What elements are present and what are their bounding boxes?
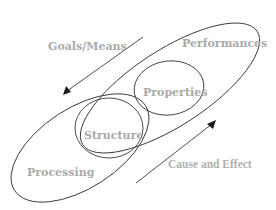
arrowhead-up-right-icon xyxy=(207,120,216,129)
goals-means-label: Goals/Means xyxy=(48,40,127,53)
processing-label: Processing xyxy=(27,166,95,179)
arrowhead-down-left-icon xyxy=(63,86,71,95)
properties-label: Properties xyxy=(143,86,207,99)
structure-ellipse xyxy=(75,98,143,158)
materials-tetrahedron-diagram: Goals/Means Performances Properties Stru… xyxy=(0,0,276,210)
performances-label: Performances xyxy=(182,37,267,50)
structure-label: Structure xyxy=(84,129,143,142)
cause-effect-arrow xyxy=(136,120,216,183)
cause-effect-label: Cause and Effect xyxy=(168,158,252,170)
